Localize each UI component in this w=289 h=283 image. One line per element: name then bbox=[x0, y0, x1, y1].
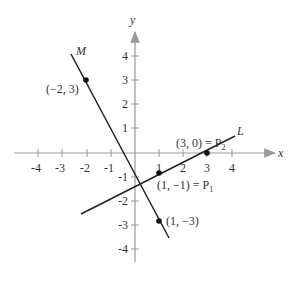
x-axis-label: x bbox=[277, 146, 284, 160]
svg-text:4: 4 bbox=[122, 49, 128, 63]
svg-text:-2: -2 bbox=[80, 161, 90, 175]
svg-text:2: 2 bbox=[122, 97, 128, 111]
point-neg2-3 bbox=[83, 77, 89, 83]
point-p1 bbox=[156, 170, 162, 176]
svg-text:-4: -4 bbox=[118, 242, 128, 256]
point-p1-label: (1, −1) = P1 bbox=[157, 178, 213, 194]
point-1-neg3 bbox=[156, 218, 162, 224]
svg-text:1: 1 bbox=[122, 121, 128, 135]
x-tick-labels: -4 -3 -2 -1 1 2 3 4 bbox=[31, 161, 235, 175]
svg-text:-1: -1 bbox=[118, 170, 128, 184]
svg-text:-3: -3 bbox=[55, 161, 65, 175]
point-p2-label: (3, 0) = P2 bbox=[176, 136, 225, 152]
y-axis-label: y bbox=[129, 13, 136, 27]
svg-text:-4: -4 bbox=[31, 161, 41, 175]
line-m-label: M bbox=[75, 44, 87, 58]
coordinate-plane: -4 -3 -2 -1 1 2 3 4 4 3 2 1 -1 -2 -3 -4 … bbox=[0, 0, 289, 283]
svg-text:-1: -1 bbox=[104, 161, 114, 175]
svg-text:3: 3 bbox=[122, 73, 128, 87]
svg-text:4: 4 bbox=[229, 161, 235, 175]
svg-text:3: 3 bbox=[204, 161, 210, 175]
point-1-neg3-label: (1, −3) bbox=[166, 214, 199, 228]
point-neg2-3-label: (−2, 3) bbox=[46, 82, 79, 96]
svg-text:-3: -3 bbox=[118, 218, 128, 232]
point-p2 bbox=[204, 150, 210, 156]
line-l-label: L bbox=[236, 124, 244, 138]
svg-text:-2: -2 bbox=[118, 194, 128, 208]
